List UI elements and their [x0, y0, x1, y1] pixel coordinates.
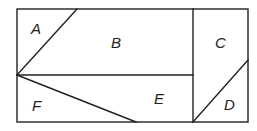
- region-label-c: C: [215, 34, 226, 51]
- region-label-e: E: [154, 90, 165, 107]
- region-label-d: D: [224, 96, 235, 113]
- region-label-f: F: [32, 97, 42, 114]
- region-label-a: A: [30, 20, 41, 37]
- region-label-b: B: [111, 34, 121, 51]
- partition-diagram: A B C D E F: [0, 0, 257, 131]
- diagonal-c-d: [193, 60, 248, 122]
- outer-rectangle: [17, 9, 248, 122]
- diagonal-a-b: [17, 9, 77, 75]
